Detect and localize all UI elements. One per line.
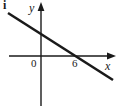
plotted-line (8, 13, 113, 80)
x-axis-label: x (105, 60, 110, 72)
y-axis-label: y (29, 2, 34, 14)
corner-mark-label: i (3, 0, 6, 11)
math-figure-linear-graph: i y x 0 6 (0, 0, 118, 109)
x-intercept-tick-label: 6 (72, 58, 78, 69)
origin-tick-label: 0 (31, 58, 37, 69)
y-axis-arrowhead-icon (38, 2, 45, 11)
coordinate-plane-svg (0, 0, 118, 109)
